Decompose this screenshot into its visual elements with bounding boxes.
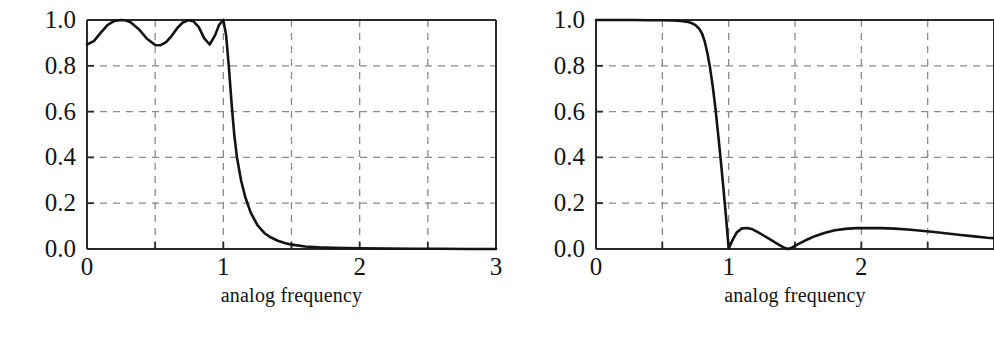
- data-line-series: [87, 20, 496, 249]
- y-tick-label: 0.4: [554, 143, 586, 170]
- y-tick-label: 0.6: [554, 98, 585, 125]
- right-plot-area: 0.00.20.40.60.81.0012: [510, 0, 994, 300]
- left-panel: 0.00.20.40.60.81.00123 analog frequency: [0, 0, 510, 339]
- x-tick-label: 1: [217, 253, 230, 280]
- right-xlabel: analog frequency: [596, 284, 994, 307]
- tick-marks: [596, 20, 994, 249]
- gridlines: [87, 20, 496, 249]
- right-panel: 0.00.20.40.60.81.0012 analog frequency: [510, 0, 994, 339]
- axes-frame: [596, 20, 994, 249]
- x-tick-label: 3: [490, 253, 503, 280]
- figure-two-filter-responses: 0.00.20.40.60.81.00123 analog frequency …: [0, 0, 994, 339]
- data-line-series: [596, 20, 994, 249]
- x-tick-label: 0: [590, 253, 603, 280]
- y-tick-label: 0.6: [45, 98, 76, 125]
- y-tick-label: 0.0: [45, 235, 76, 262]
- tick-labels: 0.00.20.40.60.81.0012: [554, 6, 868, 280]
- y-tick-label: 0.2: [554, 189, 585, 216]
- y-tick-label: 0.4: [45, 143, 77, 170]
- y-tick-label: 0.0: [554, 235, 585, 262]
- y-tick-label: 1.0: [45, 6, 76, 33]
- x-tick-label: 1: [722, 253, 735, 280]
- y-tick-label: 0.8: [45, 52, 76, 79]
- tick-marks: [87, 20, 496, 249]
- left-xlabel: analog frequency: [87, 284, 496, 307]
- x-tick-label: 0: [81, 253, 94, 280]
- x-tick-label: 2: [855, 253, 868, 280]
- gridlines: [596, 20, 994, 249]
- left-plot-area: 0.00.20.40.60.81.00123: [0, 0, 510, 300]
- x-tick-label: 2: [353, 253, 366, 280]
- y-tick-label: 1.0: [554, 6, 585, 33]
- axes-frame: [87, 20, 496, 249]
- y-tick-label: 0.8: [554, 52, 585, 79]
- y-tick-label: 0.2: [45, 189, 76, 216]
